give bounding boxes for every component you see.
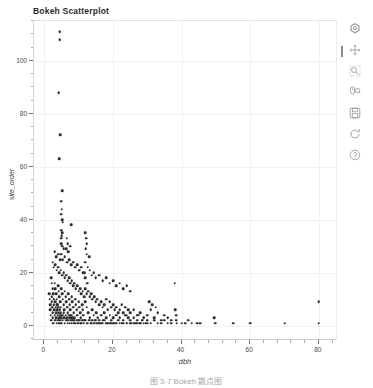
scatter-point: [84, 232, 87, 235]
x-tick-major: [249, 340, 250, 344]
scatter-point: [96, 298, 99, 301]
scatter-point: [156, 311, 159, 314]
scatter-point: [118, 317, 121, 320]
scatter-point: [155, 306, 158, 309]
scatter-point: [59, 134, 62, 137]
y-tick-minor: [31, 298, 34, 299]
active-tool-marker: [341, 46, 343, 57]
scatter-point: [78, 269, 81, 272]
scatter-point: [139, 322, 142, 325]
scatter-point: [143, 317, 146, 320]
scatter-point: [57, 91, 60, 94]
scatter-point: [58, 38, 61, 41]
scatter-points-layer: [34, 21, 336, 339]
scatter-point: [149, 322, 152, 325]
scatter-point: [84, 261, 87, 264]
y-axis-label: site_order: [8, 169, 15, 200]
scatter-point: [84, 277, 87, 280]
scatter-point: [160, 322, 163, 325]
scatter-point: [68, 258, 71, 261]
scatter-point: [108, 282, 111, 285]
pan-tool-icon[interactable]: [348, 43, 362, 57]
scatter-point: [94, 301, 97, 304]
reset-tool-icon[interactable]: [348, 127, 362, 141]
scatter-point: [143, 322, 146, 325]
scatter-point: [83, 271, 86, 274]
scatter-point: [115, 314, 118, 317]
y-tick-label: 40: [20, 215, 27, 222]
scatter-point: [86, 242, 89, 245]
scatter-point: [156, 322, 159, 325]
scatter-point: [86, 282, 89, 285]
scatter-point: [84, 301, 87, 304]
x-tick-minor: [235, 340, 236, 343]
scatter-point: [100, 314, 103, 317]
y-axis: site_order 020406080100: [0, 20, 33, 340]
scatter-point: [94, 277, 97, 280]
scatter-point: [122, 322, 125, 325]
scatter-point: [151, 303, 154, 306]
box-zoom-tool-icon[interactable]: [348, 64, 362, 78]
scatter-point: [318, 301, 321, 304]
scatter-point: [85, 237, 88, 240]
scatter-point: [191, 322, 194, 325]
save-tool-icon[interactable]: [348, 106, 362, 120]
scatter-point: [132, 322, 135, 325]
x-tick-minor: [126, 340, 127, 343]
scatter-point: [249, 322, 252, 325]
wheel-zoom-tool-icon[interactable]: [348, 85, 362, 99]
scatter-point: [118, 322, 121, 325]
x-axis: dbh 020406080: [33, 340, 337, 370]
scatter-point: [62, 221, 65, 224]
y-tick-minor: [31, 100, 34, 101]
scatter-point: [137, 314, 140, 317]
scatter-point: [64, 295, 67, 298]
scatter-point: [167, 322, 170, 325]
scatter-point: [82, 314, 85, 317]
y-tick-minor: [31, 179, 34, 180]
bokeh-toolbar[interactable]: [345, 22, 365, 162]
scatter-point: [64, 290, 67, 293]
scatter-point: [129, 290, 132, 293]
y-tick-major: [29, 219, 33, 220]
y-tick-major: [29, 113, 33, 114]
scatter-point: [92, 314, 95, 317]
scatter-point: [118, 282, 121, 285]
x-tick-minor: [194, 340, 195, 343]
scatter-point: [120, 303, 123, 306]
y-tick-minor: [31, 20, 34, 21]
scatter-point: [61, 208, 64, 211]
y-tick-minor: [31, 312, 34, 313]
y-tick-major: [29, 325, 33, 326]
y-tick-minor: [31, 338, 34, 339]
scatter-point: [149, 309, 152, 312]
scatter-point: [98, 303, 101, 306]
scatter-point: [55, 256, 58, 259]
scatter-point: [62, 303, 65, 306]
scatter-point: [62, 298, 65, 301]
scatter-point: [66, 261, 69, 264]
y-tick-minor: [31, 33, 34, 34]
scatter-point: [60, 213, 63, 216]
x-tick-major: [43, 340, 44, 344]
x-tick-label: 20: [108, 346, 115, 353]
y-tick-minor: [31, 86, 34, 87]
scatter-point: [184, 322, 187, 325]
scatter-point: [132, 317, 135, 320]
scatter-point: [129, 311, 132, 314]
scatter-point: [98, 274, 101, 277]
scatter-point: [174, 309, 177, 312]
scatter-point: [113, 309, 116, 312]
plot-area[interactable]: [33, 20, 337, 340]
scatter-point: [187, 319, 190, 322]
scatter-point: [79, 311, 82, 314]
scatter-point: [64, 256, 67, 259]
x-tick-minor: [139, 340, 140, 343]
help-tool-icon[interactable]: [348, 148, 362, 162]
scatter-point: [118, 309, 121, 312]
bokeh-figure: Bokeh Scatterplot site_order 02040608010…: [0, 0, 373, 388]
scatter-point: [112, 303, 115, 306]
scatter-point: [52, 322, 55, 325]
scatter-point: [65, 301, 68, 304]
scatter-point: [87, 311, 90, 314]
